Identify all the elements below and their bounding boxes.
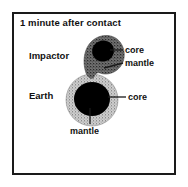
diagram-figure: 1 minute after contact Impactor Earth co… (0, 0, 188, 187)
callout-earth-mantle: mantle (70, 126, 99, 136)
callout-impactor-mantle: mantle (125, 58, 154, 68)
label-impactor: Impactor (29, 50, 69, 61)
callout-earth-core: core (128, 92, 147, 102)
callout-impactor-core: core (125, 45, 144, 55)
earth-body (66, 74, 118, 126)
earth-core-shape (74, 82, 110, 116)
impactor-body (84, 35, 124, 78)
label-earth: Earth (29, 90, 53, 101)
figure-title: 1 minute after contact (20, 17, 121, 28)
